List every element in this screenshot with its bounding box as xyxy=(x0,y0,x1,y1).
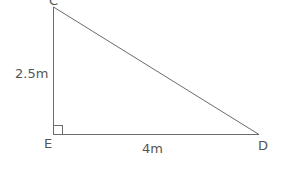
vertex-label-e: E xyxy=(44,137,52,150)
side-label-ce: 2.5m xyxy=(15,67,48,80)
right-angle-marker xyxy=(54,126,63,135)
triangle-diagram xyxy=(0,0,287,185)
side-label-ed: 4m xyxy=(142,142,163,155)
side-cd-hypotenuse xyxy=(54,7,260,135)
vertex-label-d: D xyxy=(258,139,268,152)
vertex-label-c: C xyxy=(49,0,58,7)
